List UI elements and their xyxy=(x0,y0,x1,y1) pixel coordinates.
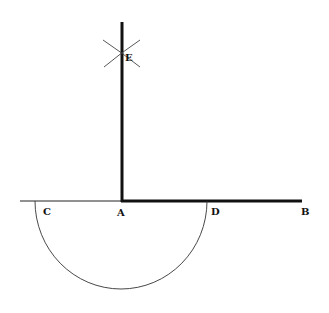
label-d: D xyxy=(211,206,220,217)
construction-diagram: E C A D B xyxy=(0,0,329,313)
label-a: A xyxy=(116,207,125,218)
label-e: E xyxy=(125,52,133,63)
label-c: C xyxy=(43,206,51,217)
label-b: B xyxy=(301,206,309,217)
